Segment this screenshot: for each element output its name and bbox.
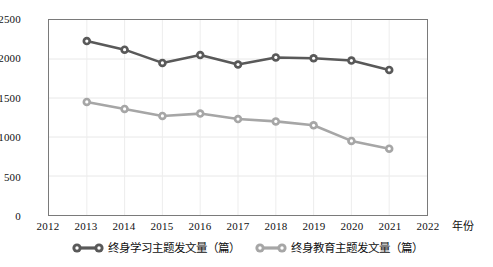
x-axis-tick-label: 2018	[256, 220, 296, 232]
data-point-marker-hole	[236, 117, 239, 120]
legend-item-series-0[interactable]: 终身学习主题发文量（篇）	[71, 241, 240, 255]
x-axis-tick-label: 2020	[332, 220, 372, 232]
y-axis-tick-label: 2000	[0, 53, 21, 64]
y-axis-tick-label: 2500	[0, 14, 21, 25]
data-point-marker-hole	[85, 100, 88, 103]
data-point-marker-hole	[388, 68, 391, 71]
data-point-marker-hole	[123, 107, 126, 110]
x-axis-tick-label: 2022	[408, 220, 448, 232]
data-point-marker-hole	[85, 39, 88, 42]
data-point-marker-hole	[274, 56, 277, 59]
x-axis-tick-label: 2015	[142, 220, 182, 232]
chart-legend: 终身学习主题发文量（篇） 终身教育主题发文量（篇）	[0, 241, 493, 255]
data-point-marker-hole	[350, 139, 353, 142]
x-axis-tick-label: 2014	[104, 220, 144, 232]
data-series-layer	[49, 20, 427, 215]
data-point-marker-hole	[312, 124, 315, 127]
x-axis-tick-label: 2019	[294, 220, 334, 232]
data-point-marker-hole	[161, 114, 164, 117]
x-axis-tick-label: 2017	[218, 220, 258, 232]
legend-marker-icon	[71, 241, 105, 255]
y-axis-tick-label: 0	[0, 211, 21, 222]
x-axis-tick-label: 2021	[370, 220, 410, 232]
chart-figure: 2500 2000 1500 1000 500 0 2012 2013 2014…	[0, 0, 493, 267]
data-point-marker-hole	[199, 54, 202, 57]
legend-item-series-1[interactable]: 终身教育主题发文量（篇）	[254, 241, 423, 255]
data-point-marker-hole	[199, 112, 202, 115]
x-axis-title: 年份	[452, 220, 474, 232]
legend-label-series-0: 终身学习主题发文量（篇）	[108, 241, 240, 255]
series-0	[83, 37, 394, 74]
data-point-marker-hole	[123, 48, 126, 51]
data-point-marker-hole	[274, 120, 277, 123]
y-axis-tick-label: 1000	[0, 132, 21, 143]
y-axis-tick-label: 1500	[0, 93, 21, 104]
x-axis-tick-label: 2016	[180, 220, 220, 232]
plot-area	[48, 19, 428, 216]
x-axis-tick-label: 2013	[66, 220, 106, 232]
legend-label-series-1: 终身教育主题发文量（篇）	[291, 241, 423, 255]
series-line	[87, 102, 389, 149]
data-point-marker-hole	[388, 147, 391, 150]
legend-marker-icon	[254, 241, 288, 255]
data-point-marker-hole	[236, 63, 239, 66]
data-point-marker-hole	[350, 59, 353, 62]
data-point-marker-hole	[312, 57, 315, 60]
x-axis-tick-label: 2012	[28, 220, 68, 232]
data-point-marker-hole	[161, 61, 164, 64]
y-axis-tick-label: 500	[0, 172, 21, 183]
series-1	[83, 98, 394, 153]
